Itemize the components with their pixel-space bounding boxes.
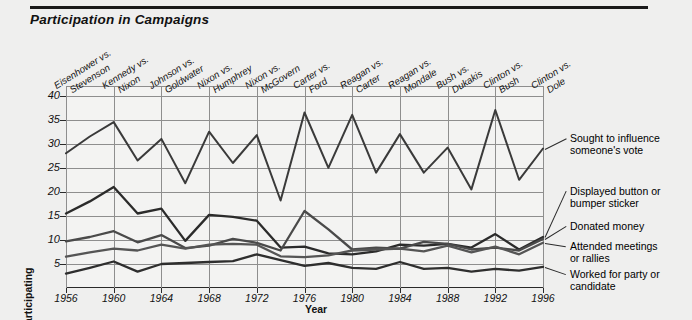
x-tick-mark	[305, 288, 306, 293]
series-leader-line	[545, 243, 566, 247]
y-tick-label: 5	[34, 257, 60, 269]
y-tick-mark	[60, 144, 66, 145]
y-axis-label: Percentage participating	[22, 267, 34, 320]
y-tick-label: 20	[34, 185, 60, 197]
y-tick-mark	[60, 192, 66, 193]
series-label-line2: or rallies	[570, 252, 610, 264]
series-callout-label: Displayed button orbumper sticker	[570, 185, 660, 209]
x-tick-mark	[448, 288, 449, 293]
gridline-v	[66, 86, 67, 288]
gridline-v	[257, 86, 258, 288]
x-tick-label: 1996	[531, 292, 554, 304]
x-tick-mark	[543, 288, 544, 293]
gridline-v	[114, 86, 115, 288]
gridline-v	[495, 86, 496, 288]
series-label-line1: Donated money	[570, 220, 644, 232]
y-tick-label: 10	[34, 233, 60, 245]
x-tick-label: 1956	[54, 292, 77, 304]
x-tick-label: 1988	[436, 292, 459, 304]
y-tick-label: 40	[34, 89, 60, 101]
x-tick-label: 1964	[150, 292, 173, 304]
series-label-line1: Sought to influence	[570, 132, 660, 144]
series-leader-line	[545, 191, 567, 237]
y-tick-label: 35	[34, 113, 60, 125]
gridline-v	[305, 86, 306, 288]
series-leader-line	[545, 138, 566, 149]
gridline-v	[209, 86, 210, 288]
y-tick-mark	[60, 216, 66, 217]
x-tick-mark	[114, 288, 115, 293]
series-label-line1: Displayed button or	[570, 185, 660, 197]
y-tick-mark	[60, 240, 66, 241]
series-leader-line	[545, 267, 566, 275]
x-tick-mark	[257, 288, 258, 293]
y-tick-label: 30	[34, 137, 60, 149]
x-tick-mark	[352, 288, 353, 293]
x-tick-mark	[66, 288, 67, 293]
x-tick-label: 1992	[484, 292, 507, 304]
x-tick-label: 1972	[245, 292, 268, 304]
page-title: Participation in Campaigns	[30, 12, 209, 27]
series-callout-label: Worked for party orcandidate	[570, 268, 660, 292]
title-rule	[30, 6, 648, 9]
y-tick-label: 25	[34, 161, 60, 173]
x-tick-mark	[400, 288, 401, 293]
series-callout-label: Donated money	[570, 220, 644, 232]
x-tick-label: 1968	[197, 292, 220, 304]
y-tick-mark	[60, 168, 66, 169]
gridline-v	[352, 86, 353, 288]
y-tick-mark	[60, 264, 66, 265]
x-tick-label: 1980	[341, 292, 364, 304]
chart-page: Participation in Campaigns 5101520253035…	[0, 0, 692, 320]
x-tick-mark	[495, 288, 496, 293]
series-label-line2: bumper sticker	[570, 197, 639, 209]
x-axis-label: Year	[305, 303, 327, 315]
x-tick-mark	[161, 288, 162, 293]
gridline-v	[543, 86, 544, 288]
series-label-line2: candidate	[570, 280, 616, 292]
series-label-line1: Attended meetings	[570, 240, 658, 252]
campaign-label: Clinton vs.Dole	[529, 58, 579, 101]
y-tick-label: 15	[34, 209, 60, 221]
gridline-v	[448, 86, 449, 288]
series-callout-label: Attended meetingsor rallies	[570, 240, 658, 264]
x-tick-label: 1960	[102, 292, 125, 304]
series-label-line1: Worked for party or	[570, 268, 660, 280]
gridline-v	[400, 86, 401, 288]
gridline-v	[161, 86, 162, 288]
x-tick-label: 1984	[388, 292, 411, 304]
series-label-line2: someone's vote	[570, 144, 643, 156]
series-callout-label: Sought to influencesomeone's vote	[570, 132, 660, 156]
x-tick-mark	[209, 288, 210, 293]
y-tick-mark	[60, 120, 66, 121]
